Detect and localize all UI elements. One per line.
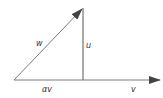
label-alpha-v: αv — [42, 85, 52, 94]
label-u: u — [86, 41, 91, 50]
label-w: w — [36, 39, 43, 48]
label-v: v — [131, 85, 136, 94]
vector-w-arrow — [14, 9, 82, 80]
vector-diagram: w u αv v — [0, 0, 163, 98]
